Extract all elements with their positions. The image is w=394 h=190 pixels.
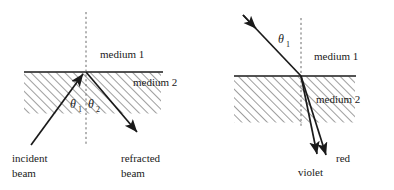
right-theta1-subscript: 1 [286,40,290,49]
left-medium2-label: medium 2 [133,76,177,88]
left-theta1-symbol: θ [70,97,76,111]
right-medium1-label: medium 1 [314,50,358,62]
refraction-dispersion-figure: medium 1 medium 2 θ 1 θ 2 incident beam … [0,0,394,190]
left-theta2-subscript: 2 [96,105,100,114]
right-theta1-label: θ 1 [278,32,290,49]
left-theta1-subscript: 1 [78,105,82,114]
right-incident-ray-arrow [243,15,256,29]
left-theta2-symbol: θ [88,97,94,111]
left-panel: medium 1 medium 2 θ 1 θ 2 incident beam … [12,12,177,179]
right-red-label: red [336,152,351,164]
left-medium1-label: medium 1 [100,48,144,60]
diagram-canvas: medium 1 medium 2 θ 1 θ 2 incident beam … [0,0,394,190]
left-refracted-beam-label-line2: beam [121,167,145,179]
right-panel: medium 1 medium 2 θ 1 red violet [234,15,360,178]
left-refracted-beam-label-line1: refracted [121,152,161,164]
left-incident-beam-label-line1: incident [12,152,47,164]
right-theta1-symbol: θ [278,32,284,46]
left-incident-beam-label-line2: beam [12,167,36,179]
right-medium2-label: medium 2 [316,93,360,105]
right-violet-label: violet [298,166,323,178]
